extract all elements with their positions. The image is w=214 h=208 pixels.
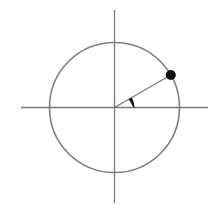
unit-circle-diagram bbox=[0, 0, 214, 208]
point-on-circle bbox=[166, 70, 176, 80]
radius-segment bbox=[115, 75, 171, 108]
angle-marker-icon bbox=[129, 98, 135, 108]
